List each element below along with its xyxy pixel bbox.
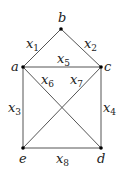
edge-label-x1: x1: [26, 36, 39, 53]
edge-label-x7: x7: [70, 72, 83, 89]
graph-diagram: x1x2x5x3x4x6x7x8baced: [0, 0, 123, 169]
node-label-b: b: [58, 10, 66, 25]
node-label-c: c: [104, 59, 112, 74]
node-a: [21, 65, 25, 69]
edge-label-x6: x6: [41, 72, 54, 89]
edge-label-x2: x2: [84, 36, 97, 53]
edge-label-x4: x4: [103, 100, 116, 117]
edge-label-x3: x3: [8, 100, 21, 117]
node-c: [99, 65, 103, 69]
node-label-a: a: [11, 59, 19, 74]
edge-label-x8: x8: [56, 151, 69, 168]
labels: x1x2x5x3x4x6x7x8baced: [8, 10, 116, 168]
node-d: [99, 146, 103, 150]
edge-label-x5: x5: [57, 51, 70, 68]
node-label-d: d: [97, 151, 105, 166]
node-b: [59, 27, 63, 31]
node-label-e: e: [19, 151, 27, 166]
node-e: [21, 146, 25, 150]
